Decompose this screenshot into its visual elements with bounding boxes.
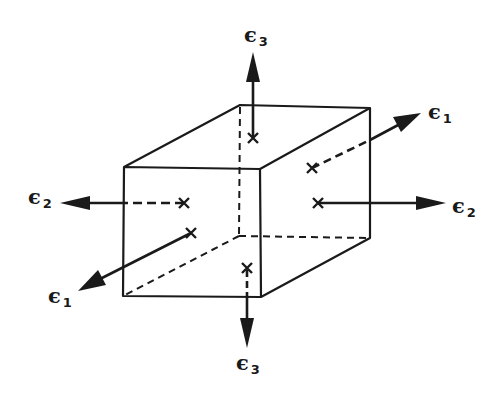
hidden-edge-vertical <box>239 107 240 236</box>
x-marker-icon <box>307 163 317 173</box>
hidden-edge-diagonal <box>125 236 239 295</box>
arrow-e3-bottom <box>240 263 254 348</box>
top-face-edges <box>124 105 370 169</box>
arrowhead-icon <box>393 113 421 132</box>
label-e3-bottom: ϵ3 <box>236 352 260 373</box>
x-marker-icon <box>186 228 196 238</box>
arrow-e1-right <box>307 113 421 173</box>
label-e2-right: ϵ2 <box>452 195 476 216</box>
strain-block-diagram <box>0 0 493 398</box>
strain-arrows <box>60 52 446 348</box>
label-e3-top: ϵ3 <box>244 24 268 45</box>
arrow-e3-top <box>246 52 260 143</box>
label-e1-right: ϵ1 <box>428 101 452 122</box>
arrow-e1-left <box>78 228 196 291</box>
arrowhead-icon <box>78 270 106 291</box>
arrowhead-icon <box>60 196 90 210</box>
label-e2-left: ϵ2 <box>28 186 52 207</box>
arrowhead-icon <box>246 52 260 82</box>
arrowhead-icon <box>240 318 254 348</box>
hidden-edge-horizontal <box>239 236 368 238</box>
arrow-e2-right <box>313 196 446 210</box>
label-e1-left: ϵ1 <box>48 285 72 306</box>
arrowhead-icon <box>416 196 446 210</box>
